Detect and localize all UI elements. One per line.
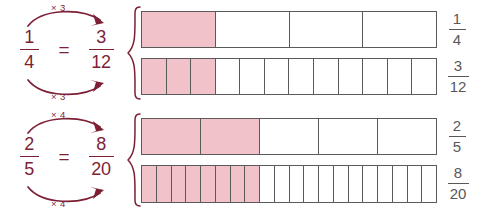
bar-cell-empty — [216, 12, 290, 47]
arrow-curve-top — [28, 119, 100, 133]
equals-sign: = — [52, 40, 76, 59]
arrow-head-top — [90, 14, 104, 26]
label-numerator: 2 — [443, 118, 471, 133]
bar-model-eight-twentieths — [141, 165, 437, 203]
multiplier-label-bottom: × 4 — [51, 198, 66, 209]
brace-top — [126, 6, 142, 100]
fraction-denominator: 5 — [14, 160, 44, 178]
bar-cell-empty — [393, 166, 408, 202]
bar-cell-empty — [289, 59, 314, 94]
bar-cell-empty — [363, 166, 378, 202]
bar-cell-empty — [422, 166, 436, 202]
bar-cell-empty — [349, 166, 364, 202]
bar-cell-empty — [319, 119, 378, 154]
bar-cell-empty — [388, 59, 413, 94]
fraction-bar — [20, 156, 39, 158]
bar-label-three-twelfths: 3 12 — [443, 58, 473, 94]
bar-label-two-fifths: 2 5 — [443, 118, 471, 154]
bar-cell-shaded — [142, 119, 201, 154]
bar-cell-empty — [408, 166, 423, 202]
bar-cell-empty — [275, 166, 290, 202]
bar-cell-shaded — [201, 166, 216, 202]
bar-cell-empty — [290, 12, 364, 47]
fraction-bar — [89, 156, 114, 158]
arrow-head-bottom — [90, 187, 104, 199]
bar-cell-empty — [363, 12, 436, 47]
bar-cell-shaded — [201, 119, 260, 154]
label-numerator: 8 — [443, 165, 473, 180]
bar-cell-shaded — [186, 166, 201, 202]
bar-cell-empty — [240, 59, 265, 94]
equation-block-bottom: × 4 × 4 2 5 = 8 20 — [0, 107, 130, 214]
brace-bottom — [126, 113, 142, 207]
label-bar — [449, 29, 466, 30]
multiplier-label-top: × 4 — [51, 109, 66, 120]
bar-cell-empty — [265, 59, 290, 94]
bar-cell-empty — [412, 59, 436, 94]
multiplier-label-top: × 3 — [51, 2, 66, 13]
bar-cell-empty — [378, 166, 393, 202]
label-denominator: 5 — [443, 139, 471, 154]
fraction-numerator: 1 — [14, 28, 44, 46]
label-bar — [449, 136, 466, 137]
bar-cell-shaded — [245, 166, 260, 202]
arrow-curve-top — [28, 12, 100, 26]
bar-model-two-fifths — [141, 118, 437, 155]
fraction-right: 3 12 — [83, 28, 119, 71]
fraction-bar — [89, 49, 114, 51]
bar-cell-shaded — [142, 59, 167, 94]
equation-row: × 3 × 3 1 4 = 3 12 — [0, 0, 130, 107]
bar-cell-empty — [260, 166, 275, 202]
fraction-bar — [20, 49, 39, 51]
fraction-denominator: 4 — [14, 53, 44, 71]
bar-cell-shaded — [142, 12, 216, 47]
label-denominator: 20 — [443, 186, 473, 201]
label-denominator: 12 — [443, 79, 473, 94]
bar-cell-empty — [363, 59, 388, 94]
label-bar — [448, 76, 469, 77]
fraction-numerator: 3 — [83, 28, 119, 46]
label-numerator: 1 — [443, 11, 471, 26]
fraction-right: 8 20 — [83, 135, 119, 178]
bar-cell-empty — [290, 166, 305, 202]
bar-cell-empty — [260, 119, 319, 154]
bar-label-eight-twentieths: 8 20 — [443, 165, 473, 201]
label-numerator: 3 — [443, 58, 473, 73]
bar-cell-shaded — [231, 166, 246, 202]
bar-cell-shaded — [172, 166, 187, 202]
bar-cell-shaded — [167, 59, 192, 94]
bar-model-three-twelfths — [141, 58, 437, 95]
fraction-numerator: 8 — [83, 135, 119, 153]
label-denominator: 4 — [443, 32, 471, 47]
label-bar — [448, 183, 469, 184]
bar-cell-empty — [339, 59, 364, 94]
fraction-denominator: 12 — [83, 53, 119, 71]
bar-cell-shaded — [191, 59, 216, 94]
equation-block-top: × 3 × 3 1 4 = 3 12 — [0, 0, 130, 107]
bar-cell-empty — [319, 166, 334, 202]
bar-cell-shaded — [142, 166, 157, 202]
bar-cell-shaded — [157, 166, 172, 202]
bar-model-one-quarter — [141, 11, 437, 48]
bar-cell-shaded — [216, 166, 231, 202]
equation-row: × 4 × 4 2 5 = 8 20 — [0, 107, 130, 214]
arrow-head-top — [90, 121, 104, 133]
bar-cell-empty — [334, 166, 349, 202]
multiplier-label-bottom: × 3 — [51, 91, 66, 102]
equals-sign: = — [52, 147, 76, 166]
fraction-left: 1 4 — [14, 28, 44, 71]
bar-cell-empty — [216, 59, 241, 94]
bar-label-one-quarter: 1 4 — [443, 11, 471, 47]
fraction-left: 2 5 — [14, 135, 44, 178]
bar-cell-empty — [314, 59, 339, 94]
arrow-head-bottom — [90, 80, 104, 92]
fraction-denominator: 20 — [83, 160, 119, 178]
fraction-numerator: 2 — [14, 135, 44, 153]
bar-cell-empty — [304, 166, 319, 202]
bar-cell-empty — [378, 119, 436, 154]
